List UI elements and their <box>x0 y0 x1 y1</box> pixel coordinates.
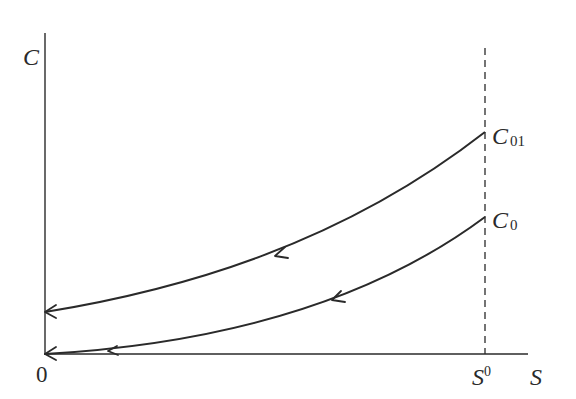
s0-label-sup: 0 <box>484 364 491 379</box>
c0-label-main: C <box>492 207 508 233</box>
s0-label: S0 <box>472 365 491 389</box>
y-axis-label: C <box>23 45 39 69</box>
s0-label-main: S <box>472 364 484 390</box>
c0-label-sub: 0 <box>510 217 518 233</box>
c0-label: C0 <box>492 208 518 233</box>
c01-label-sub: 01 <box>510 133 525 149</box>
phase-diagram <box>0 0 576 399</box>
origin-label: 0 <box>36 363 48 386</box>
c01-label-main: C <box>492 123 508 149</box>
curve-c0 <box>45 217 485 354</box>
x-axis-label: S <box>530 365 542 389</box>
c01-label: C01 <box>492 124 525 149</box>
curve-c01 <box>45 132 485 312</box>
